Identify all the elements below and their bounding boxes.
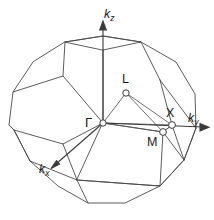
kx-axis-label-sub: x	[45, 168, 49, 178]
line-L-M	[126, 93, 163, 132]
point-label-X: X	[166, 107, 174, 120]
edge-left-mid	[9, 125, 14, 130]
edge-right-hex-lower	[184, 128, 196, 160]
kx-axis-arrowhead	[51, 161, 60, 169]
face-lower-left	[30, 144, 77, 180]
edge-lower-left-inner	[14, 130, 30, 161]
edge-m-to-lower-right	[163, 132, 184, 160]
kz-axis-label: kz	[104, 8, 115, 21]
brillouin-zone-figure: kz ky kx Γ L X M	[0, 0, 214, 220]
line-gamma-L	[103, 93, 126, 123]
point-marker-X[interactable]	[169, 122, 176, 129]
kz-axis-arrowhead	[100, 21, 107, 30]
face-upper-left	[13, 76, 103, 144]
point-marker-L[interactable]	[123, 90, 129, 96]
point-marker-M[interactable]	[160, 129, 167, 136]
edge-lower-right-down	[160, 160, 184, 186]
ridge-top-left	[63, 42, 65, 76]
edge-x-to-lower-right	[172, 125, 184, 160]
kz-axis-label-sub: z	[110, 13, 114, 23]
ky-axis-label-sub: y	[194, 117, 198, 127]
face-front-center	[77, 123, 163, 186]
kx-axis-label: kx	[39, 163, 50, 176]
point-label-gamma: Γ	[85, 116, 92, 129]
axes-group	[51, 21, 209, 169]
point-label-L: L	[122, 73, 129, 86]
irreducible-wedge-group	[103, 93, 172, 132]
point-label-M: M	[147, 136, 157, 149]
ky-axis-arrowhead	[200, 124, 209, 131]
brillouin-zone-drawing	[0, 0, 214, 220]
ky-axis-label: ky	[188, 112, 199, 125]
point-marker-gamma[interactable]	[100, 120, 106, 126]
